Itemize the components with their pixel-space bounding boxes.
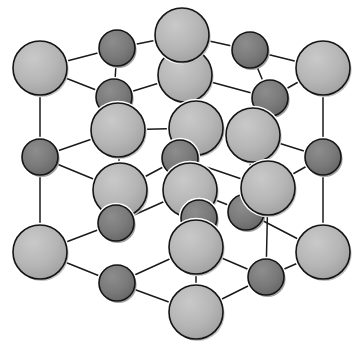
lattice-diagram-canvas xyxy=(0,0,362,347)
sphere-small xyxy=(22,139,58,175)
atom-large-anion xyxy=(294,223,352,281)
atom-small-cation xyxy=(303,137,343,177)
atom-large-anion xyxy=(153,6,211,64)
sphere-small xyxy=(99,265,135,301)
sphere-large xyxy=(91,103,145,157)
sphere-large xyxy=(241,161,295,215)
sphere-large xyxy=(296,225,350,279)
atom-large-anion xyxy=(167,218,225,276)
atom-small-cation xyxy=(97,263,137,303)
sphere-large xyxy=(296,41,350,95)
atom-small-cation xyxy=(97,28,137,68)
sphere-small xyxy=(98,205,134,241)
atom-small-cation xyxy=(96,203,136,243)
atom-small-cation xyxy=(246,257,286,297)
atom-small-cation xyxy=(230,30,270,70)
sphere-small xyxy=(232,32,268,68)
atom-large-anion xyxy=(89,101,147,159)
sphere-large xyxy=(155,8,209,62)
atom-large-anion xyxy=(11,223,69,281)
sphere-small xyxy=(99,30,135,66)
sphere-small xyxy=(305,139,341,175)
atom-large-anion xyxy=(294,39,352,97)
atom-large-anion xyxy=(239,159,297,217)
crystal-lattice-figure xyxy=(0,0,362,347)
sphere-large xyxy=(226,108,280,162)
atom-large-anion xyxy=(167,283,225,341)
sphere-large xyxy=(169,220,223,274)
sphere-large xyxy=(169,285,223,339)
atom-small-cation xyxy=(20,137,60,177)
atom-large-anion xyxy=(11,39,69,97)
sphere-large xyxy=(13,225,67,279)
sphere-small xyxy=(248,259,284,295)
atom-large-anion xyxy=(224,106,282,164)
sphere-large xyxy=(13,41,67,95)
